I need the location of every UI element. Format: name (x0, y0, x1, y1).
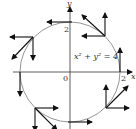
y-tick-2: 2 (64, 25, 69, 34)
vector-field-diagram: y x 0 2 2 x² + y² = 4 (0, 0, 136, 129)
arrow-ur-upleft (82, 15, 105, 36)
arrow-ll-downright (35, 108, 57, 129)
y-axis-label: y (66, 0, 72, 8)
origin-label: 0 (63, 74, 68, 83)
equation-label: x² + y² = 4 (74, 52, 118, 61)
x-tick-2: 2 (121, 74, 126, 83)
arrows (10, 13, 129, 129)
x-axis-label: x (131, 72, 136, 81)
